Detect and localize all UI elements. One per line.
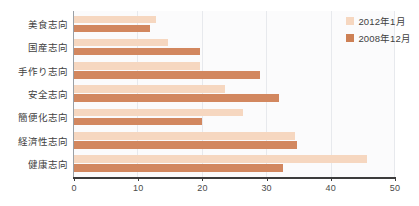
- bar-series-2012: [74, 62, 200, 70]
- legend-swatch-icon: [346, 17, 354, 25]
- bar-row: 安全志向: [0, 83, 419, 107]
- bar-series-2008: [74, 71, 260, 79]
- bar-row: 経済性志向: [0, 130, 419, 154]
- x-tick-label: 20: [197, 183, 207, 193]
- x-tick-mark: [138, 177, 139, 181]
- bar-series-2008: [74, 141, 297, 149]
- bar-series-2012: [74, 16, 156, 24]
- bar-row: 健康志向: [0, 153, 419, 177]
- x-tick-mark: [74, 177, 75, 181]
- bar-chart: 美食志向国産志向手作り志向安全志向簡便化志向経済性志向健康志向 01020304…: [0, 0, 419, 206]
- x-tick-mark: [202, 177, 203, 181]
- bar-series-2012: [74, 39, 168, 47]
- legend-item: 2008年12月: [346, 31, 411, 45]
- bar-series-2008: [74, 94, 279, 102]
- x-tick-mark: [267, 177, 268, 181]
- x-axis-line: [73, 177, 396, 179]
- bar-series-2012: [74, 85, 225, 93]
- category-label: 国産志向: [4, 40, 68, 54]
- category-label: 健康志向: [4, 157, 68, 171]
- bar-series-2008: [74, 48, 200, 56]
- bar-series-2012: [74, 132, 295, 140]
- bar-series-2012: [74, 155, 367, 163]
- x-tick-label: 0: [71, 183, 76, 193]
- bar-series-2008: [74, 164, 283, 172]
- category-label: 美食志向: [4, 17, 68, 31]
- bar-row: 手作り志向: [0, 60, 419, 84]
- x-tick-mark: [331, 177, 332, 181]
- bar-series-2012: [74, 109, 243, 117]
- category-label: 経済性志向: [4, 134, 68, 148]
- category-label: 安全志向: [4, 87, 68, 101]
- bar-series-2008: [74, 25, 150, 33]
- bar-series-2008: [74, 118, 202, 126]
- x-tick-mark: [395, 177, 396, 181]
- category-label: 手作り志向: [4, 64, 68, 78]
- x-tick-label: 40: [326, 183, 336, 193]
- x-tick-label: 50: [390, 183, 400, 193]
- bar-row: 簡便化志向: [0, 106, 419, 130]
- x-tick-label: 10: [133, 183, 143, 193]
- category-label: 簡便化志向: [4, 110, 68, 124]
- legend-swatch-icon: [346, 34, 354, 42]
- legend-item: 2012年1月: [346, 14, 411, 28]
- x-tick-label: 30: [261, 183, 271, 193]
- legend-label: 2008年12月: [358, 31, 411, 45]
- chart-legend: 2012年1月 2008年12月: [346, 14, 411, 45]
- legend-label: 2012年1月: [358, 14, 405, 28]
